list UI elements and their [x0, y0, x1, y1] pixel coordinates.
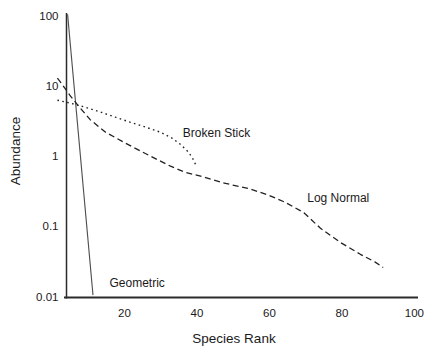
x-tick-label-40: 40: [191, 307, 204, 319]
rank-abundance-chart: 204060801001001010.10.01Species RankAbun…: [0, 0, 437, 359]
y-tick-label-0.01: 0.01: [36, 291, 58, 303]
x-tick-label-60: 60: [263, 307, 276, 319]
series-label-broken-stick: Broken Stick: [183, 126, 251, 140]
x-tick-label-80: 80: [336, 307, 349, 319]
y-tick-label-100: 100: [39, 10, 58, 22]
series-label-geometric: Geometric: [109, 276, 164, 290]
x-tick-label-20: 20: [118, 307, 131, 319]
series-label-log-normal: Log Normal: [307, 191, 369, 205]
y-axis-title: Abundance: [8, 117, 23, 185]
x-axis-title: Species Rank: [192, 331, 276, 346]
x-tick-label-100: 100: [405, 307, 424, 319]
y-tick-label-0.1: 0.1: [43, 220, 59, 232]
y-tick-label-1: 1: [52, 150, 58, 162]
series-line-log-normal: [57, 78, 383, 267]
rank-abundance-figure: 204060801001001010.10.01Species RankAbun…: [0, 0, 437, 359]
series-line-geometric: [68, 14, 93, 295]
y-tick-label-10: 10: [46, 80, 59, 92]
